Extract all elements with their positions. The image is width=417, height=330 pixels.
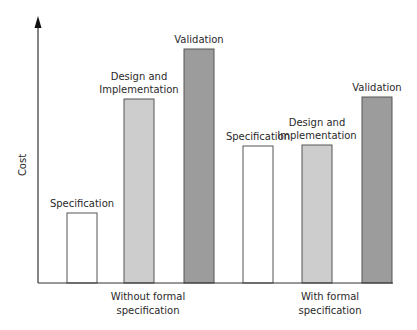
bar-label: Implementation [277, 130, 356, 141]
cost-bar-chart: SpecificationDesign andImplementationVal… [0, 0, 417, 330]
group-labels: Without formalspecificationWith formalsp… [111, 291, 362, 316]
bar-label: Implementation [99, 84, 178, 95]
group-label: With formal [301, 291, 359, 302]
bar-label: Validation [174, 34, 223, 45]
bar-design-and-implementation-1 [302, 145, 332, 283]
group-label: Without formal [111, 291, 185, 302]
bar-label: Validation [352, 82, 401, 93]
y-axis-arrow-icon [35, 16, 42, 28]
bar-specification-1 [243, 146, 273, 283]
y-axis-label: Cost [17, 154, 28, 176]
bar-specification-0 [67, 213, 97, 283]
group-label: specification [116, 305, 179, 316]
bar-validation-1 [362, 97, 392, 283]
bar-label: Specification [50, 198, 114, 209]
bar-labels: SpecificationDesign andImplementationVal… [50, 34, 402, 209]
bar-label: Design and [289, 117, 346, 128]
bar-design-and-implementation-0 [124, 99, 154, 283]
bar-validation-0 [184, 49, 214, 283]
group-label: specification [298, 305, 361, 316]
bar-label: Design and [111, 71, 168, 82]
